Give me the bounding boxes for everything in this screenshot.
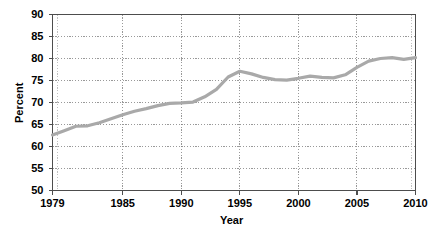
x-tick-label: 1979 xyxy=(33,198,73,209)
x-tick-label: 1990 xyxy=(161,198,201,209)
x-tick-label: 2005 xyxy=(337,198,377,209)
y-tick-label: 80 xyxy=(28,53,44,64)
x-axis-title: Year xyxy=(220,215,243,226)
x-tick-label: 1995 xyxy=(220,198,260,209)
y-tick-label: 60 xyxy=(28,141,44,152)
y-tick-label: 65 xyxy=(28,119,44,130)
axis-ticks xyxy=(49,15,416,195)
y-tick-label: 85 xyxy=(28,31,44,42)
y-tick-label: 50 xyxy=(28,185,44,196)
y-tick-label: 70 xyxy=(28,97,44,108)
y-tick-label: 55 xyxy=(28,163,44,174)
x-tick-label: 1985 xyxy=(103,198,143,209)
data-series xyxy=(53,58,416,135)
x-tick-label: 2000 xyxy=(278,198,318,209)
y-tick-label: 75 xyxy=(28,75,44,86)
gridlines xyxy=(53,15,416,191)
y-axis-title: Percent xyxy=(14,82,25,122)
line-chart: 505560657075808590 197919851990199520002… xyxy=(0,0,431,244)
x-tick-label: 2010 xyxy=(396,198,431,209)
y-tick-label: 90 xyxy=(28,9,44,20)
